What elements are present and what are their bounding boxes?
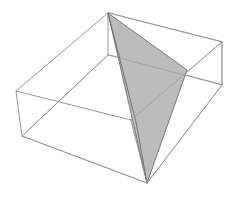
cross-section-plane <box>108 13 187 183</box>
wireframe-geometry-canvas <box>0 0 235 201</box>
box-edge-bottom-left-to-front <box>22 136 147 183</box>
figure-root <box>0 0 235 201</box>
cross-section-plane-group <box>108 13 187 183</box>
box-edge-left-vertical <box>16 91 22 136</box>
